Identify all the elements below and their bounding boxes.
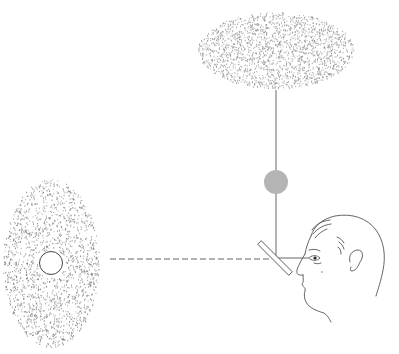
stipple-dot: [264, 20, 265, 22]
stipple-dot: [99, 269, 100, 271]
stipple-dot: [250, 42, 251, 43]
stipple-dot: [295, 39, 296, 40]
stipple-dot: [234, 53, 235, 54]
stipple-dot: [228, 71, 229, 72]
stipple-dot: [299, 67, 300, 68]
stipple-dot: [34, 322, 35, 324]
stipple-dot: [65, 218, 66, 220]
stipple-dot: [300, 66, 301, 67]
stipple-dot: [89, 281, 90, 283]
stipple-dot: [216, 37, 217, 38]
stipple-dot: [208, 38, 209, 40]
stipple-dot: [96, 251, 97, 253]
stipple-dot: [251, 26, 252, 28]
stipple-dot: [257, 23, 258, 24]
stipple-dot: [35, 314, 36, 315]
stipple-dot: [64, 195, 65, 196]
stipple-dot: [343, 45, 344, 47]
stipple-dot: [229, 66, 230, 68]
stipple-dot: [257, 87, 258, 88]
stipple-dot: [279, 28, 280, 29]
stipple-dot: [88, 225, 89, 227]
stipple-dot: [47, 232, 48, 234]
stipple-dot: [262, 16, 263, 18]
stipple-dot: [26, 270, 27, 271]
stipple-dot: [198, 49, 199, 50]
stipple-dot: [29, 307, 30, 308]
stipple-dot: [32, 256, 33, 257]
stipple-dot: [13, 227, 14, 228]
stipple-dot: [35, 248, 36, 250]
stipple-dot: [79, 267, 80, 268]
stipple-dot: [264, 62, 265, 64]
stipple-dot: [48, 189, 49, 190]
stipple-dot: [269, 76, 270, 77]
stipple-dot: [220, 38, 221, 40]
stipple-dot: [316, 24, 317, 25]
stipple-dot: [59, 196, 60, 197]
stipple-dot: [53, 294, 54, 295]
stipple-dot: [6, 238, 7, 240]
stipple-dot: [345, 34, 346, 35]
stipple-dot: [338, 34, 339, 36]
stipple-dot: [352, 57, 353, 59]
stipple-dot: [259, 47, 260, 48]
stipple-dot: [81, 321, 82, 322]
stipple-dot: [287, 84, 288, 85]
stipple-dot: [25, 253, 26, 254]
stipple-dot: [226, 31, 227, 32]
stipple-dot: [81, 272, 82, 273]
stipple-dot: [247, 43, 248, 44]
stipple-dot: [26, 263, 27, 264]
stipple-dot: [67, 239, 68, 241]
stipple-dot: [321, 61, 322, 62]
stipple-dot: [254, 20, 255, 21]
stipple-dot: [293, 21, 294, 23]
stipple-dot: [10, 236, 11, 237]
stipple-dot: [15, 233, 16, 234]
stipple-dot: [345, 38, 346, 39]
stipple-dot: [256, 44, 257, 46]
stipple-dot: [95, 240, 96, 241]
stipple-dot: [229, 73, 230, 74]
stipple-dot: [214, 73, 215, 74]
stipple-dot: [26, 334, 27, 335]
stipple-dot: [44, 299, 45, 300]
stipple-dot: [337, 50, 338, 51]
stipple-dot: [299, 68, 300, 69]
stipple-dot: [347, 56, 348, 57]
stipple-dot: [69, 218, 70, 220]
stipple-dot: [13, 233, 14, 234]
stipple-dot: [36, 208, 37, 209]
stipple-dot: [88, 259, 89, 261]
stipple-dot: [55, 221, 56, 222]
stipple-dot: [24, 218, 25, 220]
stipple-dot: [77, 212, 78, 213]
stipple-dot: [17, 219, 18, 220]
stipple-dot: [33, 328, 34, 329]
stipple-dot: [79, 277, 80, 278]
stipple-dot: [41, 297, 42, 298]
stipple-dot: [15, 230, 16, 231]
stipple-dot: [209, 53, 210, 54]
stipple-dot: [266, 32, 267, 33]
stipple-dot: [81, 220, 82, 221]
stipple-dot: [261, 39, 262, 40]
stipple-dot: [255, 76, 256, 78]
stipple-dot: [29, 294, 30, 295]
stipple-dot: [328, 66, 329, 67]
stipple-dot: [25, 331, 26, 333]
stipple-dot: [258, 57, 259, 58]
stipple-dot: [230, 28, 231, 29]
stipple-dot: [31, 187, 32, 188]
stipple-dot: [214, 60, 215, 61]
stipple-dot: [314, 51, 315, 52]
stipple-dot: [24, 302, 25, 303]
stipple-dot: [33, 192, 34, 193]
stipple-dot: [321, 43, 322, 44]
stipple-dot: [52, 179, 53, 180]
stipple-dot: [60, 336, 61, 337]
stipple-dot: [34, 199, 35, 200]
stipple-dot: [239, 78, 240, 79]
stipple-dot: [27, 296, 28, 298]
